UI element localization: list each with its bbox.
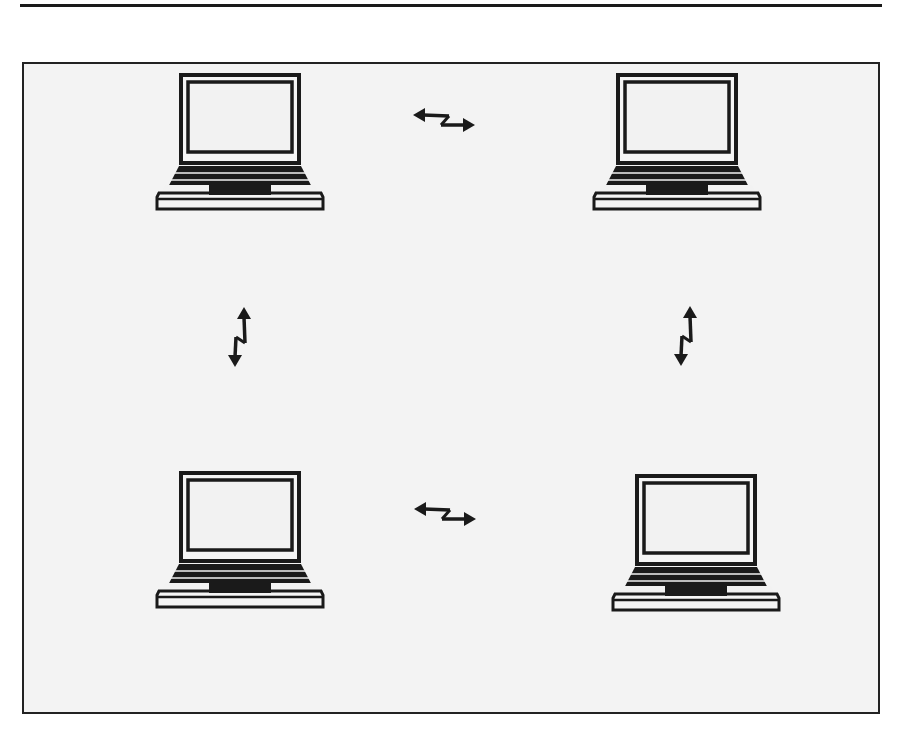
laptop-icon bbox=[153, 73, 327, 213]
laptop-icon bbox=[609, 474, 783, 614]
bidirectional-wireless-arrow-icon bbox=[228, 307, 254, 369]
link-top-horizontal bbox=[413, 106, 477, 134]
link-left-vertical bbox=[228, 307, 254, 369]
bidirectional-wireless-arrow-icon bbox=[414, 500, 478, 528]
page bbox=[0, 0, 909, 745]
link-bottom-horizontal bbox=[414, 500, 478, 528]
laptop-icon bbox=[590, 73, 764, 213]
bidirectional-wireless-arrow-icon bbox=[413, 106, 477, 134]
laptop-icon bbox=[153, 471, 327, 611]
top-rule-divider bbox=[20, 4, 882, 7]
bidirectional-wireless-arrow-icon bbox=[674, 306, 700, 368]
laptop-bottom-left bbox=[153, 471, 325, 611]
link-right-vertical bbox=[674, 306, 700, 368]
laptop-top-right bbox=[590, 73, 762, 213]
laptop-bottom-right bbox=[609, 474, 781, 614]
laptop-top-left bbox=[153, 73, 325, 213]
